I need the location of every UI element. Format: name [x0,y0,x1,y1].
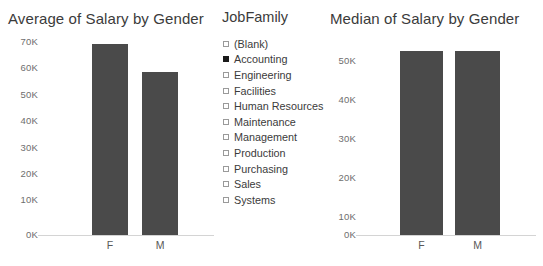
ytick-label: 0K [326,229,356,240]
ytick-label: 40K [326,94,356,105]
bar-median-f[interactable] [400,51,443,235]
checkbox-icon[interactable] [223,72,229,78]
slicer-item-engineering[interactable]: Engineering [223,67,331,83]
slicer-item-label: Production [234,147,286,159]
ytick-label: 30K [326,133,356,144]
slicer-item-label: Engineering [234,69,292,81]
slicer-item-purchasing[interactable]: Purchasing [223,161,331,177]
report-canvas: Average of Salary by Gender 70K 60K 50K … [0,0,543,266]
slicer-item-facilities[interactable]: Facilities [223,83,331,99]
ytick-label: 0K [2,229,38,240]
chart-title-median: Median of Salary by Gender [330,10,519,27]
bar-median-m[interactable] [455,51,500,235]
xtick-label-m: M [455,239,500,251]
ytick-label: 30K [2,142,38,153]
x-axis-line [356,235,536,236]
ytick-label: 40K [2,115,38,126]
slicer-title: JobFamily [222,9,288,25]
slicer-item-production[interactable]: Production [223,145,331,161]
slicer-item-label: Maintenance [234,116,296,128]
slicer-item-label: Human Resources [234,100,323,112]
slicer-item-label: Facilities [234,85,276,97]
slicer-item-sales[interactable]: Sales [223,176,331,192]
ytick-label: 70K [2,36,38,47]
plot-area-median: 50K 40K 30K 20K 10K 0K F M [360,36,532,235]
checkbox-icon[interactable] [223,150,229,156]
checkbox-icon[interactable] [223,197,229,203]
slicer-item-label: (Blank) [234,38,268,50]
slicer-item-blank[interactable]: (Blank) [223,36,331,52]
slicer-item-maintenance[interactable]: Maintenance [223,114,331,130]
xtick-label-m: M [142,239,178,251]
xtick-label-f: F [400,239,443,251]
slicer-item-label: Sales [234,178,261,190]
ytick-label: 20K [326,172,356,183]
checkbox-icon[interactable] [223,41,229,47]
slicer-jobfamily: JobFamily (Blank) Accounting Engineering… [220,0,332,266]
xtick-label-f: F [92,239,128,251]
slicer-item-label: Management [234,131,297,143]
slicer-item-accounting[interactable]: Accounting [223,52,331,68]
ytick-label: 60K [2,62,38,73]
plot-area-average: 70K 60K 50K 40K 30K 20K 10K 0K F M [44,36,209,235]
checkbox-icon[interactable] [223,88,229,94]
ytick-label: 10K [326,211,356,222]
slicer-item-list: (Blank) Accounting Engineering Facilitie… [223,36,331,208]
slicer-item-label: Purchasing [234,163,288,175]
checkbox-icon[interactable] [223,181,229,187]
slicer-item-human-resources[interactable]: Human Resources [223,98,331,114]
ytick-label: 10K [2,194,38,205]
bar-average-f[interactable] [92,44,128,235]
chart-average-salary-by-gender: Average of Salary by Gender 70K 60K 50K … [0,0,218,266]
slicer-item-label: Accounting [234,53,287,65]
x-axis-line [38,235,214,236]
ytick-label: 50K [326,55,356,66]
chart-title-average: Average of Salary by Gender [8,10,204,27]
slicer-item-systems[interactable]: Systems [223,192,331,208]
checkbox-checked-icon[interactable] [223,56,229,62]
ytick-label: 20K [2,168,38,179]
checkbox-icon[interactable] [223,103,229,109]
chart-median-salary-by-gender: Median of Salary by Gender 50K 40K 30K 2… [326,0,543,266]
checkbox-icon[interactable] [223,166,229,172]
slicer-item-label: Systems [234,194,275,206]
checkbox-icon[interactable] [223,134,229,140]
ytick-label: 50K [2,89,38,100]
checkbox-icon[interactable] [223,119,229,125]
slicer-item-management[interactable]: Management [223,130,331,146]
bar-average-m[interactable] [142,72,178,235]
